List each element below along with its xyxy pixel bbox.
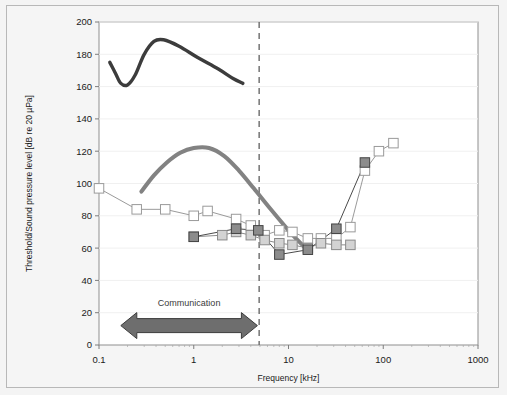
data-point-marker	[231, 214, 241, 224]
x-axis-tick-label: 1	[191, 354, 196, 365]
data-point-marker	[332, 224, 342, 234]
y-axis-tick-label: 100	[76, 178, 92, 189]
data-point-marker	[260, 235, 270, 245]
data-point-marker	[275, 239, 285, 249]
y-axis-tick-label: 40	[81, 275, 92, 286]
y-axis-tick-label: 20	[81, 307, 92, 318]
data-point-marker	[160, 205, 170, 215]
y-axis-tick-label: 60	[81, 243, 92, 254]
data-point-marker	[189, 232, 199, 242]
data-point-marker	[316, 239, 326, 249]
y-axis-tick-label: 160	[76, 81, 92, 92]
data-point-marker	[275, 226, 285, 236]
data-point-marker	[189, 211, 199, 221]
data-point-marker	[288, 240, 298, 250]
y-axis-tick-label: 140	[76, 113, 92, 124]
data-point-marker	[303, 234, 313, 244]
data-point-marker	[332, 240, 342, 250]
data-point-marker	[346, 222, 356, 232]
data-point-marker	[360, 158, 370, 168]
data-point-marker	[303, 245, 313, 255]
data-point-marker	[94, 184, 104, 194]
data-point-marker	[254, 226, 263, 236]
x-axis-tick-label: 0.1	[92, 354, 105, 365]
y-axis-tick-label: 180	[76, 49, 92, 60]
data-point-marker	[231, 224, 241, 234]
data-point-marker	[389, 138, 399, 148]
chart-plot: 0204060801001201401601802000.11101001000…	[0, 0, 507, 395]
x-axis-tick-label: 1000	[467, 354, 488, 365]
y-axis-tick-label: 120	[76, 146, 92, 157]
y-axis-tick-label: 200	[76, 16, 92, 27]
x-axis-title: Frequency [kHz]	[258, 373, 320, 383]
figure-container: 0204060801001201401601802000.11101001000…	[0, 0, 507, 395]
data-point-marker	[132, 205, 142, 215]
data-point-marker	[346, 240, 356, 250]
y-axis-tick-label: 0	[87, 339, 92, 350]
x-axis-tick-label: 10	[283, 354, 294, 365]
data-point-marker	[374, 146, 384, 156]
x-axis-tick-label: 100	[375, 354, 391, 365]
data-point-marker	[275, 250, 285, 260]
data-point-marker	[288, 227, 298, 237]
data-point-marker	[203, 206, 213, 216]
y-axis-title: Threshold/Sound pressure level [dB re 20…	[24, 95, 34, 272]
data-point-marker	[218, 230, 228, 240]
communication-annotation-label: Communication	[158, 298, 221, 308]
y-axis-tick-label: 80	[81, 210, 92, 221]
